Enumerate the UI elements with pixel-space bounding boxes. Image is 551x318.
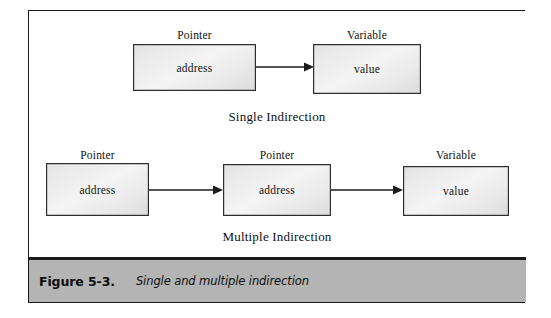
node-label-variable-1: Variable xyxy=(313,29,421,41)
variable-box-1: value xyxy=(313,44,421,94)
pointer-box-2-text: address xyxy=(47,184,148,196)
pointer-box-1: address xyxy=(133,44,256,91)
diagram-canvas: Pointer address Variable value Single In… xyxy=(29,11,526,259)
figure-number: Figure 5-3. xyxy=(39,274,115,289)
node-label-pointer-2: Pointer xyxy=(46,149,149,161)
pointer-box-2: address xyxy=(46,163,149,216)
figure-frame: Pointer address Variable value Single In… xyxy=(28,10,525,303)
arrow-pointer-to-variable-2 xyxy=(331,183,403,197)
variable-box-2: value xyxy=(403,166,509,216)
figure-title: Single and multiple indirection xyxy=(136,274,309,288)
variable-box-1-text: value xyxy=(314,63,420,75)
arrow-pointer-to-variable-1 xyxy=(256,60,314,74)
pointer-box-3-text: address xyxy=(224,184,330,196)
node-label-variable-2: Variable xyxy=(403,149,509,161)
node-label-pointer-3: Pointer xyxy=(223,149,331,161)
pointer-box-1-text: address xyxy=(134,62,255,74)
node-label-pointer-1: Pointer xyxy=(133,29,256,41)
pointer-box-3: address xyxy=(223,164,331,216)
figure-caption-bar: Figure 5-3. Single and multiple indirect… xyxy=(29,257,526,302)
section-label-multiple-indirection: Multiple Indirection xyxy=(163,229,391,245)
variable-box-2-text: value xyxy=(404,185,508,197)
arrow-pointer-to-pointer-2 xyxy=(149,183,223,197)
section-label-single-indirection: Single Indirection xyxy=(163,109,391,125)
